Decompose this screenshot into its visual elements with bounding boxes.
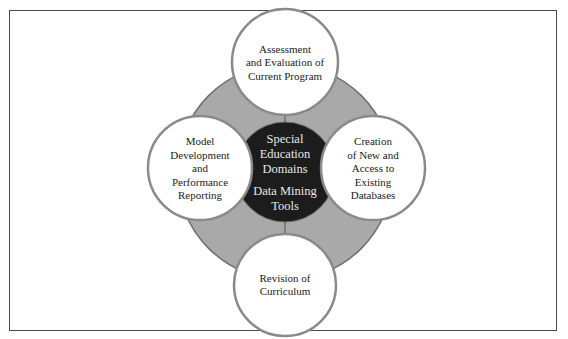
node-line: Creation (354, 135, 392, 148)
node-line: Revision of (259, 272, 310, 285)
node-line: Curriculum (260, 285, 311, 298)
node-line: of New and (347, 149, 398, 162)
node-line: Existing (355, 176, 392, 189)
hub-line: Tools (271, 199, 299, 214)
node-line: Assessment (259, 43, 311, 56)
node-left-label: Model Development and Performance Report… (155, 136, 245, 202)
node-line: Current Program (248, 70, 322, 83)
node-line: and Evaluation of (246, 56, 324, 69)
node-line: Model (186, 135, 215, 148)
hub-line: Special (267, 132, 304, 147)
node-top-label: Assessment and Evaluation of Current Pro… (235, 36, 335, 90)
node-line: Databases (351, 189, 396, 202)
hub-label: Special Education Domains Data Mining To… (235, 128, 335, 218)
node-line: Reporting (178, 189, 222, 202)
node-right-label: Creation of New and Access to Existing D… (328, 136, 418, 202)
hub-line: Domains (262, 162, 307, 177)
hub-line: Education (260, 147, 311, 162)
node-line: Access to (352, 162, 394, 175)
node-line: Development (170, 149, 229, 162)
hub-line: Data Mining (253, 184, 317, 199)
node-line: and (192, 162, 208, 175)
node-bottom-label: Revision of Curriculum (235, 268, 335, 302)
node-line: Performance (172, 176, 228, 189)
